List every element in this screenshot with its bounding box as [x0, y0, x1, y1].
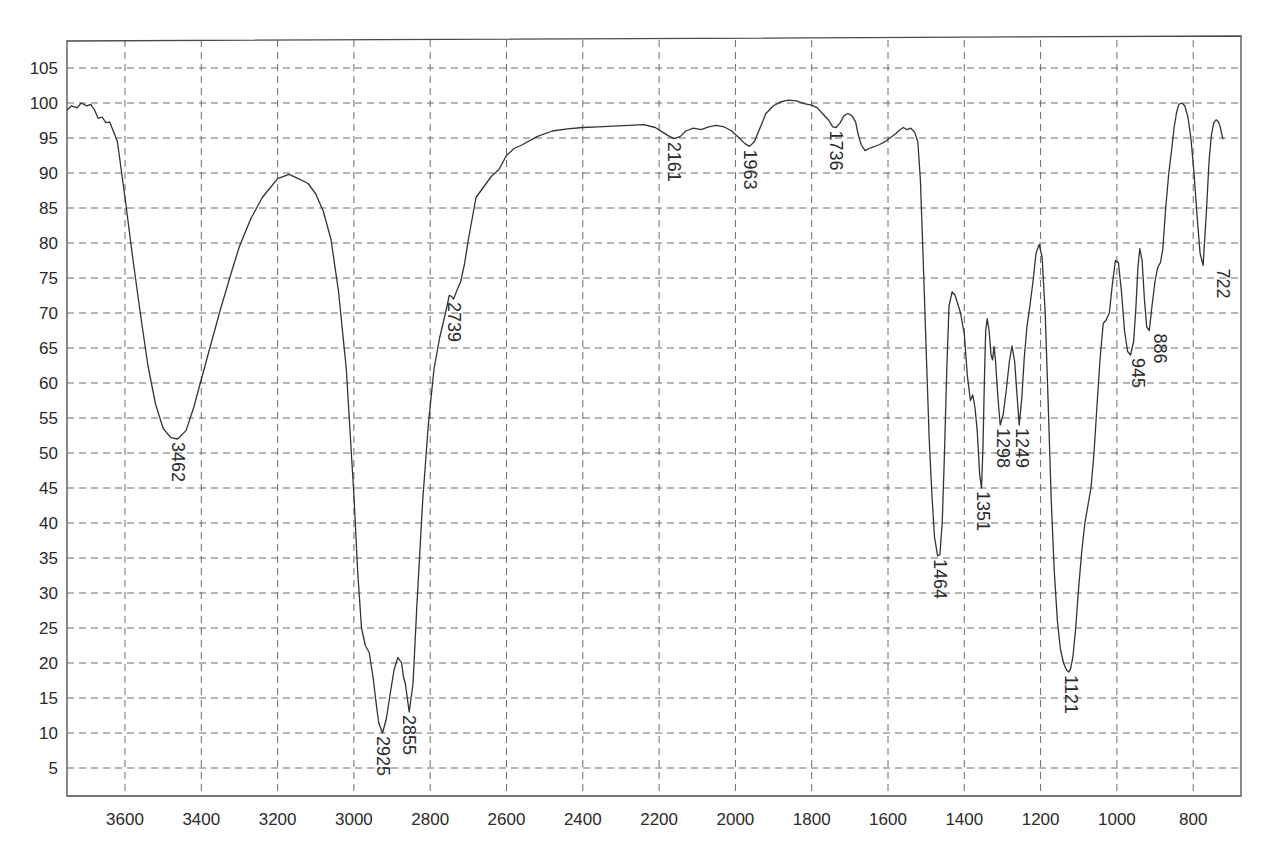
peak-label: 1464 — [930, 559, 950, 599]
x-tick-label: 3400 — [182, 810, 220, 829]
x-tick-label: 2800 — [411, 810, 449, 829]
x-tick-label: 3200 — [259, 810, 297, 829]
y-tick-label: 70 — [39, 304, 58, 323]
peak-label: 1298 — [993, 428, 1013, 468]
peak-label: 1736 — [826, 131, 846, 171]
y-axis-tick-labels: 5101520253035404550556065707580859095100… — [30, 59, 58, 778]
peak-label: 945 — [1128, 358, 1148, 388]
x-tick-label: 3600 — [106, 810, 144, 829]
peak-label: 2161 — [664, 142, 684, 182]
peak-label: 1351 — [973, 491, 993, 531]
x-tick-label: 1600 — [869, 810, 907, 829]
y-tick-label: 80 — [39, 234, 58, 253]
peak-label: 1963 — [740, 149, 760, 189]
x-tick-label: 1200 — [1022, 810, 1060, 829]
peak-label: 886 — [1150, 334, 1170, 364]
y-tick-label: 10 — [39, 724, 58, 743]
x-tick-label: 1000 — [1098, 810, 1136, 829]
y-tick-label: 5 — [49, 759, 58, 778]
y-tick-label: 30 — [39, 584, 58, 603]
y-tick-label: 50 — [39, 444, 58, 463]
x-tick-label: 2600 — [488, 810, 526, 829]
y-tick-label: 75 — [39, 269, 58, 288]
x-tick-label: 1800 — [793, 810, 831, 829]
y-tick-label: 35 — [39, 549, 58, 568]
x-tick-label: 3000 — [335, 810, 373, 829]
spectrum-trace — [67, 100, 1223, 733]
y-tick-label: 85 — [39, 199, 58, 218]
ir-spectrum-chart: 5101520253035404550556065707580859095100… — [0, 0, 1273, 854]
peak-label: 2925 — [373, 736, 393, 776]
y-tick-label: 15 — [39, 689, 58, 708]
peak-label: 3462 — [168, 442, 188, 482]
y-tick-label: 105 — [30, 59, 58, 78]
x-axis-tick-labels: 3600340032003000280026002400220020001800… — [106, 810, 1207, 829]
peak-label: 2739 — [444, 302, 464, 342]
y-tick-label: 45 — [39, 479, 58, 498]
x-tick-label: 1400 — [945, 810, 983, 829]
x-tick-label: 2400 — [564, 810, 602, 829]
peak-label: 1249 — [1012, 428, 1032, 468]
peak-label: 1121 — [1061, 675, 1081, 714]
y-tick-label: 60 — [39, 374, 58, 393]
y-tick-label: 40 — [39, 514, 58, 533]
y-tick-label: 25 — [39, 619, 58, 638]
y-tick-label: 100 — [30, 94, 58, 113]
y-tick-label: 20 — [39, 654, 58, 673]
x-tick-label: 800 — [1179, 810, 1207, 829]
peak-label: 722 — [1213, 268, 1233, 298]
y-tick-label: 95 — [39, 129, 58, 148]
y-tick-label: 55 — [39, 409, 58, 428]
x-tick-label: 2200 — [640, 810, 678, 829]
peak-label: 2855 — [399, 715, 419, 755]
y-tick-label: 65 — [39, 339, 58, 358]
y-tick-label: 90 — [39, 164, 58, 183]
x-tick-label: 2000 — [716, 810, 754, 829]
